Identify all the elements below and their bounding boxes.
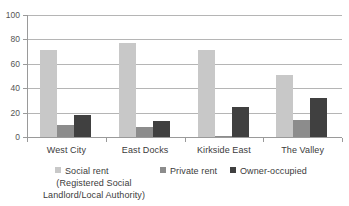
y-tick-label-text: 80	[11, 34, 20, 44]
bars-layer	[27, 15, 342, 137]
bar-east-docks-private-rent	[136, 127, 153, 137]
bar-the-valley-social-rent	[276, 75, 293, 137]
legend-item-social-rent[interactable]: Social rent	[55, 166, 109, 176]
x-tick-4	[342, 138, 343, 142]
category-label-c3: The Valley	[263, 145, 342, 155]
bar-kirkside-east-owner-occupied	[232, 107, 249, 138]
legend-label-owner-occupied: Owner-occupied	[240, 166, 307, 176]
bar-east-docks-owner-occupied	[153, 121, 170, 137]
y-tick-label-text: 100	[6, 10, 20, 20]
x-tick-1	[106, 138, 107, 142]
bar-east-docks-social-rent	[119, 43, 136, 137]
legend-label-social-rent: Social rent	[65, 166, 109, 176]
bar-kirkside-east-social-rent	[198, 50, 215, 137]
legend-label-private-rent: Private rent	[170, 166, 217, 176]
y-tick-label-text: 20	[11, 108, 20, 118]
y-tick-label-text: 60	[11, 59, 20, 69]
bar-chart: 020406080100 West CityEast DocksKirkside…	[0, 0, 349, 206]
bar-kirkside-east-private-rent	[215, 136, 232, 137]
bar-west-city-owner-occupied	[74, 115, 91, 137]
legend-label-social-rent-line3: Landlord/Local Authority)	[0, 190, 188, 200]
x-tick-2	[185, 138, 186, 142]
chart-legend: Social rentPrivate rentOwner-occupied(Re…	[0, 166, 349, 206]
legend-swatch-social-rent	[55, 167, 61, 173]
legend-label-social-rent-line2: (Registered Social	[0, 178, 188, 188]
bar-west-city-social-rent	[40, 50, 57, 137]
bar-the-valley-private-rent	[293, 120, 310, 137]
legend-item-owner-occupied[interactable]: Owner-occupied	[230, 166, 307, 176]
x-tick-0	[27, 138, 28, 142]
y-tick-label-text: 0	[15, 132, 20, 142]
bar-the-valley-owner-occupied	[310, 98, 327, 137]
x-tick-3	[263, 138, 264, 142]
legend-swatch-owner-occupied	[230, 167, 236, 173]
legend-item-private-rent[interactable]: Private rent	[160, 166, 217, 176]
chart-title-cropped	[0, 0, 349, 3]
legend-swatch-private-rent	[160, 167, 166, 173]
bar-west-city-private-rent	[57, 125, 74, 137]
category-label-c1: East Docks	[106, 145, 185, 155]
category-label-c0: West City	[27, 145, 106, 155]
y-tick-label-text: 40	[11, 83, 20, 93]
category-label-c2: Kirkside East	[185, 145, 264, 155]
